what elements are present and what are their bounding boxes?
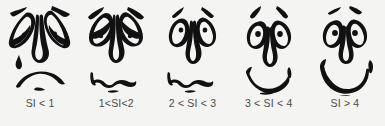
scale-label-5: SI > 4 bbox=[330, 97, 359, 109]
scale-label-1: SI < 1 bbox=[26, 97, 55, 109]
scale-item-4: 3 < SI < 4 bbox=[231, 0, 307, 126]
scale-item-5: SI > 4 bbox=[307, 0, 383, 126]
grinning-face-icon bbox=[307, 0, 383, 96]
sad-face-icon bbox=[2, 0, 78, 96]
scale-label-3: 2 < SI < 3 bbox=[169, 97, 217, 109]
smiling-face-icon bbox=[231, 0, 307, 96]
neutral-face-icon bbox=[155, 0, 231, 96]
scale-label-4: 3 < SI < 4 bbox=[245, 97, 293, 109]
scale-item-1: SI < 1 bbox=[2, 0, 78, 126]
scale-item-3: 2 < SI < 3 bbox=[154, 0, 230, 126]
scale-label-2: 1<SI<2 bbox=[99, 97, 134, 109]
scale-item-2: 1<SI<2 bbox=[78, 0, 154, 126]
slightly-sad-face-icon bbox=[78, 0, 154, 96]
smiley-index-scale: SI < 1 bbox=[0, 0, 385, 126]
